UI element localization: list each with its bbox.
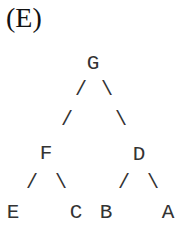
edge-d-a: \ [145,172,161,194]
edge-g-f-lower: / [59,109,75,131]
node-f: F [38,143,54,165]
edge-f-e: / [24,172,40,194]
node-b: B [98,202,114,224]
node-e: E [5,202,21,224]
edge-f-c: \ [53,172,69,194]
edge-g-d-upper: \ [99,79,115,101]
edge-d-b: / [116,172,132,194]
panel-label: (E) [6,1,42,35]
edge-g-d-lower: \ [113,109,129,131]
node-g: G [85,53,101,75]
node-c: C [68,202,84,224]
node-d: D [131,144,147,166]
edge-g-f-upper: / [73,79,89,101]
node-a: A [160,202,176,224]
